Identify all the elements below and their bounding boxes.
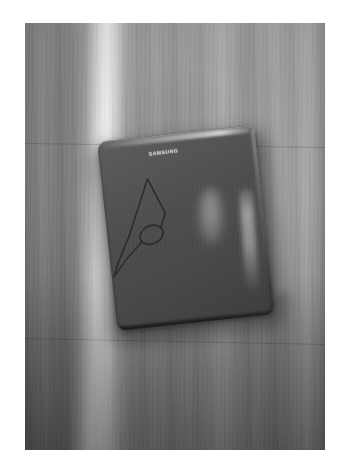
photo-margin-top: [0, 0, 349, 23]
photo-frame: SAMSUNG: [0, 0, 349, 468]
photograph: SAMSUNG: [25, 23, 325, 450]
photo-margin-bottom: [0, 450, 349, 468]
photo-margin-left: [0, 0, 25, 468]
laptop: SAMSUNG: [97, 125, 275, 331]
laptop-lid: SAMSUNG: [97, 125, 275, 331]
photo-margin-right: [325, 0, 349, 468]
